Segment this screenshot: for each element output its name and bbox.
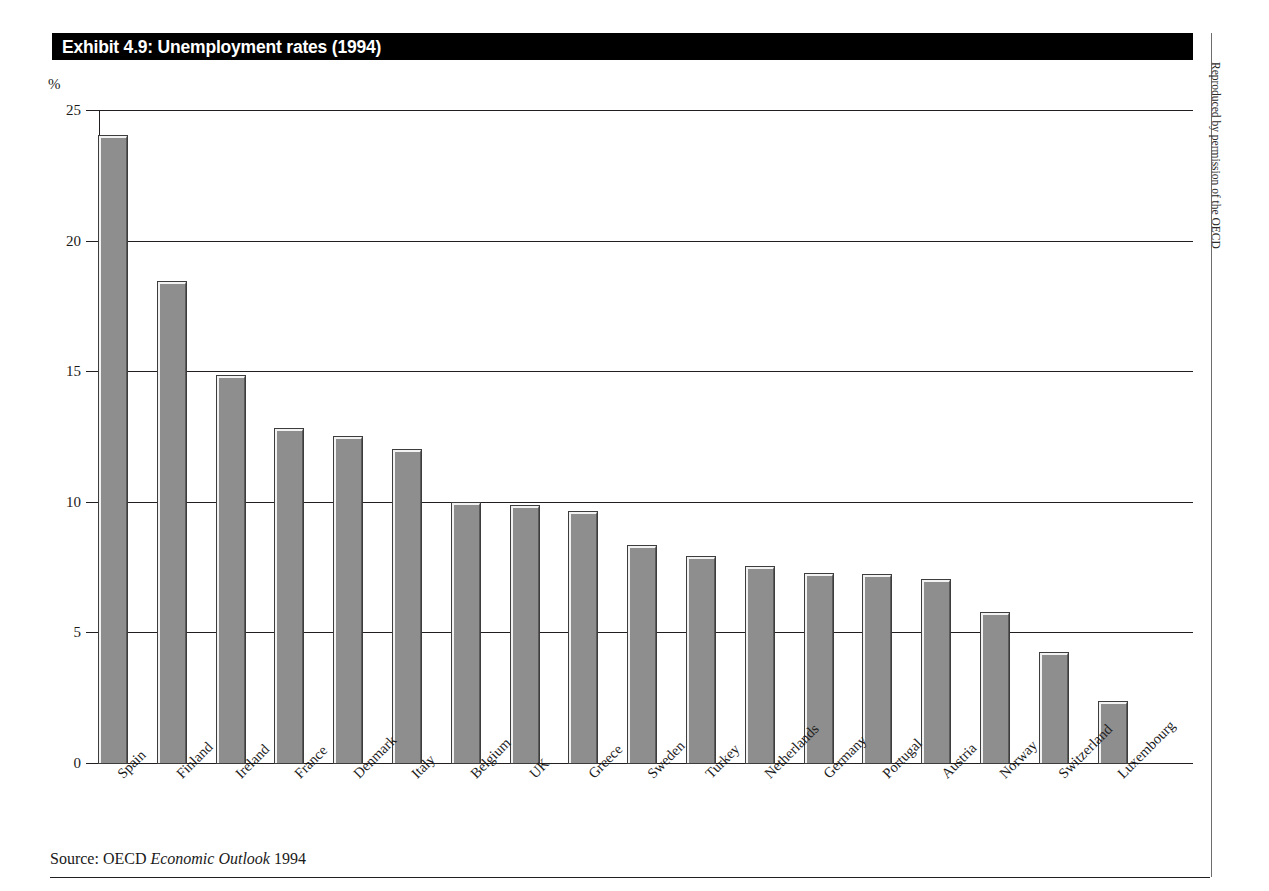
y-axis-tick-label: 15	[66, 363, 81, 380]
y-axis-tick-label: 10	[66, 493, 81, 510]
y-axis-tick-label: 0	[74, 755, 82, 772]
exhibit-figure: Exhibit 4.9: Unemployment rates (1994) %…	[0, 0, 1269, 891]
exhibit-title: Exhibit 4.9: Unemployment rates (1994)	[62, 36, 381, 57]
bar	[217, 376, 245, 763]
y-axis-tick	[86, 371, 99, 372]
y-axis-tick-label: 25	[66, 102, 81, 119]
gridline	[99, 371, 1193, 372]
source-caption: Source: OECD Economic Outlook 1994	[50, 850, 306, 868]
credit-note: Reproduced by permission of the OECD	[1210, 62, 1222, 249]
bar	[511, 506, 539, 763]
bar	[452, 503, 480, 763]
source-rule	[50, 877, 1210, 878]
bar	[158, 282, 186, 763]
gridline	[99, 502, 1193, 503]
y-axis-tick	[86, 632, 99, 633]
y-axis-unit-label: %	[48, 76, 61, 93]
y-axis-tick-label: 5	[74, 624, 82, 641]
y-axis-tick	[86, 241, 99, 242]
bar	[393, 450, 421, 763]
source-prefix: Source: OECD	[50, 850, 150, 867]
bar	[628, 546, 656, 763]
bar	[922, 580, 950, 763]
y-axis-tick	[86, 502, 99, 503]
bar	[569, 512, 597, 763]
source-suffix: 1994	[270, 850, 306, 867]
exhibit-title-bar: Exhibit 4.9: Unemployment rates (1994)	[52, 33, 1193, 60]
source-title: Economic Outlook	[150, 850, 270, 867]
bar	[981, 613, 1009, 763]
gridline	[99, 241, 1193, 242]
bar	[334, 437, 362, 764]
bar	[687, 557, 715, 763]
bar	[1040, 653, 1068, 763]
bar	[275, 429, 303, 763]
gridline	[99, 110, 1193, 111]
bar	[746, 567, 774, 763]
y-axis-tick	[86, 763, 99, 764]
bar	[863, 575, 891, 763]
y-axis-tick	[86, 110, 99, 111]
bar	[99, 136, 127, 763]
gridline	[99, 763, 1193, 764]
y-axis-tick-label: 20	[66, 232, 81, 249]
plot-area: 0510152025	[99, 110, 1193, 763]
